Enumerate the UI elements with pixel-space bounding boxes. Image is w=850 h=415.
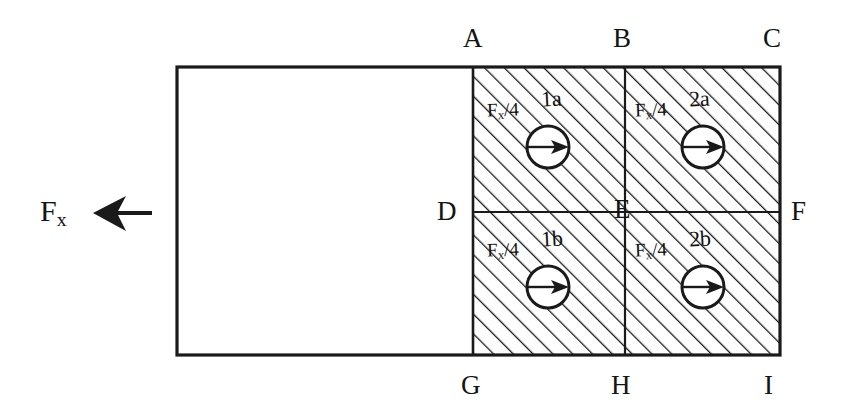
quadrant-force-circle-2a [682,126,724,168]
quadrant-1b-force-divisor: /4 [504,238,520,260]
vertex-label-e: E [614,196,631,223]
quadrant-1a-force-subscript: x [498,107,505,122]
quadrant-2b-force-subscript: x [646,247,653,262]
quadrant-2a-force-subscript: x [646,107,653,122]
force-diagram-svg [0,0,850,415]
quadrant-2b-force-symbol: F [635,239,646,260]
resultant-force-arrow [93,196,152,231]
quadrant-2b-force-divisor: /4 [652,238,668,260]
vertex-label-d: D [437,198,457,225]
vertex-label-c: C [763,25,781,52]
quadrant-force-circle-1b [527,266,569,308]
vertex-label-b: B [613,25,631,52]
quadrant-1a-name-label: 1a [540,87,562,110]
quadrant-force-circle-1a [527,126,569,168]
resultant-force-label: Fx [40,196,67,226]
quadrant-1a-force-symbol: F [487,99,498,120]
resultant-force-symbol: F [40,194,57,227]
quadrant-force-circle-2b [682,266,724,308]
quadrant-1b-name-label: 1b [540,227,563,250]
resultant-force-subscript: x [57,208,67,230]
quadrant-2a-name-label: 2a [688,87,710,110]
diagram-canvas: Fx A B C D E F G H I Fx/4 1a Fx/4 2a Fx/… [0,0,850,415]
vertex-label-i: I [764,372,773,399]
quadrant-2a-force-symbol: F [635,99,646,120]
quadrant-2b-name-label: 2b [688,227,711,250]
vertex-label-f: F [791,198,806,225]
quadrant-1b-force-symbol: F [487,239,498,260]
quadrant-2a-force-label: Fx/4 [635,99,667,119]
quadrant-1a-force-divisor: /4 [504,98,520,120]
vertex-label-g: G [461,372,481,399]
quadrant-1a-force-label: Fx/4 [487,99,519,119]
vertex-label-h: H [611,372,631,399]
quadrant-1b-force-subscript: x [498,247,505,262]
quadrant-2b-force-label: Fx/4 [635,239,667,259]
vertex-label-a: A [463,25,483,52]
quadrant-1b-force-label: Fx/4 [487,239,519,259]
quadrant-2a-force-divisor: /4 [652,98,668,120]
